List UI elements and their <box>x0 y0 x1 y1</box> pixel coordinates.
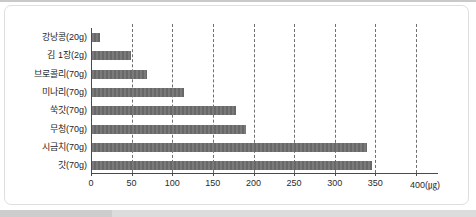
bar <box>92 88 184 97</box>
bar <box>92 33 100 42</box>
bar <box>92 106 236 115</box>
page-top-rule <box>0 0 476 2</box>
category-label: 미나리(70g) <box>0 87 87 98</box>
gridline-350 <box>375 24 376 173</box>
x-tick-label-0: 0 <box>88 178 93 188</box>
gridline-400 <box>416 24 417 173</box>
x-tick-label-150: 150 <box>205 178 220 188</box>
y-axis <box>91 28 92 173</box>
x-tick-label-400: 400(㎍) <box>410 178 440 191</box>
x-tick-label-350: 350 <box>368 178 383 188</box>
x-axis <box>91 173 438 174</box>
category-label: 쑥갓(70g) <box>0 105 87 116</box>
bar <box>92 143 367 152</box>
x-tick-label-200: 200 <box>246 178 261 188</box>
x-tick-label-100: 100 <box>165 178 180 188</box>
bar <box>92 161 372 170</box>
category-label: 강낭콩(20g) <box>0 32 87 43</box>
category-label: 김 1장(2g) <box>0 50 87 61</box>
bar <box>92 125 246 134</box>
bar <box>92 51 131 60</box>
x-tick-label-50: 50 <box>127 178 137 188</box>
category-label: 갓(70g) <box>0 160 87 171</box>
x-tick-label-250: 250 <box>287 178 302 188</box>
page-bottom-band-left-segment <box>0 210 112 217</box>
bar <box>92 70 147 79</box>
x-tick-label-300: 300 <box>327 178 342 188</box>
category-label: 브로콜리(70g) <box>0 69 87 80</box>
category-label: 시금치(70g) <box>0 142 87 153</box>
category-label: 무청(70g) <box>0 124 87 135</box>
